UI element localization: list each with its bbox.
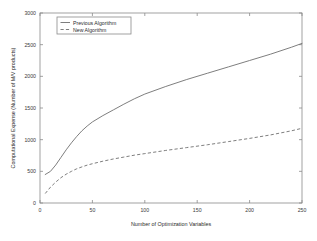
x-tick-label: 200 <box>245 207 254 213</box>
chart-legend: Previous AlgorithmNew Algorithm <box>57 17 131 34</box>
y-tick-label: 1000 <box>24 137 36 143</box>
y-tick-label: 500 <box>27 168 36 174</box>
y-tick-label: 1500 <box>24 105 36 111</box>
y-tick-label: 2500 <box>24 42 36 48</box>
x-axis-title: Number of Optimization Variables <box>131 221 211 227</box>
line-chart: 050010001500200025003000 050100150200250… <box>0 0 317 241</box>
y-tick-label: 3000 <box>24 10 36 16</box>
y-tick-label: 2000 <box>24 73 36 79</box>
legend-label: New Algorithm <box>73 27 106 33</box>
figure-canvas: 050010001500200025003000 050100150200250… <box>0 0 317 241</box>
x-tick-label: 50 <box>90 207 96 213</box>
x-tick-label: 150 <box>193 207 202 213</box>
x-tick-label: 100 <box>140 207 149 213</box>
x-tick-label: 0 <box>39 207 42 213</box>
y-tick-label: 0 <box>33 200 36 206</box>
legend-label: Previous Algorithm <box>73 20 116 26</box>
y-axis-title: Computational Expense (Number of M/V pro… <box>10 47 16 168</box>
x-tick-label: 250 <box>298 207 307 213</box>
chart-background <box>0 0 317 241</box>
